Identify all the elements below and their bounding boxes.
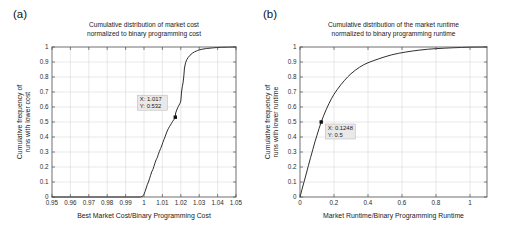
x-tick-label: 1.03 <box>193 199 206 206</box>
x-tick-label: 0.8 <box>432 199 441 206</box>
data-cursor-y-label: Y: 0.532 <box>140 103 162 109</box>
x-tick-label: 0.98 <box>101 199 114 206</box>
y-tick-label: 1 <box>45 43 49 50</box>
data-cursor-x-label: X: 1.017 <box>140 96 162 102</box>
figure-container: (a) Cumulative distribution of market co… <box>0 0 505 242</box>
x-tick-label: 0.6 <box>398 199 407 206</box>
y-axis-title-line1: Cumulative frequency of <box>264 85 272 159</box>
y-tick-label: 0.6 <box>288 103 297 110</box>
x-tick-label: 1.05 <box>230 199 243 206</box>
data-cursor-x-label: X: 0.1248 <box>328 125 354 131</box>
y-axis-title-line2: runs with lower cost <box>24 92 31 153</box>
y-tick-label: 0.8 <box>40 73 49 80</box>
y-tick-label: 0.4 <box>40 133 49 140</box>
y-tick-label: 0.9 <box>288 58 297 65</box>
y-tick-label: 0.7 <box>288 88 297 95</box>
y-tick-label: 0.1 <box>288 178 297 185</box>
x-tick-label: 1 <box>142 199 146 206</box>
chart-title-line2: normalized to binary programming runtime <box>332 30 456 38</box>
y-axis-title: Cumulative frequency ofruns with lower r… <box>264 85 279 159</box>
chart-b: Cumulative distribution of the market ru… <box>253 0 505 242</box>
y-tick-label: 0.1 <box>40 178 49 185</box>
y-tick-label: 0.8 <box>288 73 297 80</box>
y-tick-label: 0.6 <box>40 103 49 110</box>
panel-a: (a) Cumulative distribution of market co… <box>0 0 252 242</box>
y-tick-label: 0.3 <box>40 148 49 155</box>
data-cursor-marker <box>174 116 177 119</box>
y-tick-label: 0.7 <box>40 88 49 95</box>
x-tick-label: 1.04 <box>211 199 224 206</box>
x-tick-label: 1.02 <box>175 199 188 206</box>
x-axis-title: Best Market Cost/Binary Programming Cost <box>77 212 211 220</box>
data-cursor-y-label: Y: 0.5 <box>328 132 344 138</box>
x-tick-label: 0.96 <box>64 199 77 206</box>
y-tick-label: 0 <box>45 193 49 200</box>
chart-title-line1: Cumulative distribution of the market ru… <box>328 21 459 28</box>
data-cursor-marker <box>320 120 323 123</box>
y-axis-title-line2: runs with lower runtime <box>272 86 279 157</box>
y-tick-label: 0.5 <box>288 118 297 125</box>
y-tick-label: 1 <box>293 43 297 50</box>
x-axis-title: Market Runtime/Binary Programming Runtim… <box>323 212 464 220</box>
x-tick-label: 0.99 <box>119 199 132 206</box>
y-tick-label: 0.2 <box>288 163 297 170</box>
y-tick-label: 0.4 <box>288 133 297 140</box>
y-tick-label: 0.9 <box>40 58 49 65</box>
y-tick-label: 0.3 <box>288 148 297 155</box>
chart-title-line2: normalized to binary programming cost <box>87 30 201 38</box>
x-tick-label: 0.2 <box>330 199 339 206</box>
y-axis-title: Cumulative frequency ofruns with lower c… <box>16 85 31 159</box>
panel-b: (b) Cumulative distribution of the marke… <box>253 0 505 242</box>
y-tick-label: 0 <box>293 193 297 200</box>
chart-a: Cumulative distribution of market costno… <box>0 0 252 242</box>
y-tick-label: 0.2 <box>40 163 49 170</box>
chart-title-line1: Cumulative distribution of market cost <box>89 21 199 28</box>
x-tick-label: 1 <box>468 199 472 206</box>
x-tick-label: 0.4 <box>364 199 373 206</box>
x-tick-label: 1.01 <box>156 199 169 206</box>
y-axis-title-line1: Cumulative frequency of <box>16 85 24 159</box>
y-tick-label: 0.5 <box>40 118 49 125</box>
x-tick-label: 0.97 <box>83 199 96 206</box>
x-tick-label: 0 <box>298 199 302 206</box>
